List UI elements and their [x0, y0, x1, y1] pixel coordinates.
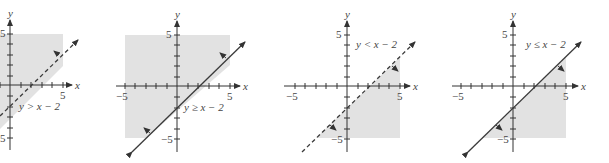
- graph-y-less-equal-x-minus-2: x y 5 −5 5 −5 y ≤ x − 2: [452, 8, 586, 152]
- x-tick-label-neg5: −5: [286, 90, 298, 102]
- y-tick-label-neg5: −5: [161, 133, 173, 145]
- graph-y-less-than-x-minus-2: x y 5 −5 5 −5 y < x − 2: [284, 8, 418, 152]
- graph-y-greater-equal-x-minus-2: x y 5 −5 5 −5 y ≥ x − 2: [116, 8, 248, 152]
- x-tick-label-neg5: −5: [452, 90, 464, 102]
- y-axis-label: y: [7, 7, 13, 19]
- x-tick-label-neg5: −5: [116, 90, 128, 102]
- inequality-label: y > x − 2: [18, 100, 61, 112]
- y-axis-label: y: [510, 8, 516, 20]
- y-tick-label-neg5: −5: [497, 133, 509, 145]
- x-tick-label-5: 5: [563, 90, 569, 102]
- x-tick-label-5: 5: [60, 89, 66, 101]
- graph-y-greater-than-x-minus-2: x y 5 5 5 y > x − 2: [0, 7, 80, 150]
- x-tick-label-5: 5: [397, 90, 403, 102]
- y-axis-label: y: [174, 8, 180, 20]
- y-tick-label-neg5: 5: [0, 132, 6, 144]
- y-tick-label-5: 5: [0, 27, 6, 39]
- x-axis-label: x: [74, 79, 80, 91]
- y-tick-label-5: 5: [502, 28, 508, 40]
- x-axis-label: x: [580, 80, 586, 92]
- inequality-label: y ≥ x − 2: [183, 101, 224, 113]
- x-tick-label-5: 5: [227, 90, 233, 102]
- x-axis-label: x: [412, 80, 418, 92]
- y-tick-label-5: 5: [336, 28, 342, 40]
- inequality-label: y < x − 2: [355, 38, 398, 50]
- inequality-graphs: x y 5 5 5 y > x − 2 x y 5 −5 5 −5 y: [0, 0, 609, 163]
- shaded-region: [0, 34, 63, 129]
- y-axis-label: y: [344, 8, 350, 20]
- x-axis-label: x: [242, 80, 248, 92]
- inequality-label: y ≤ x − 2: [525, 38, 566, 50]
- y-tick-label-5: 5: [166, 28, 172, 40]
- y-tick-label-neg5: −5: [331, 133, 343, 145]
